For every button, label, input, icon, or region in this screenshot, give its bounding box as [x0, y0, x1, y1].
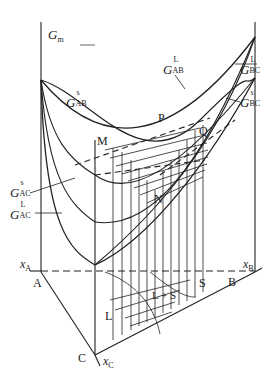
point-P: P [158, 112, 165, 124]
diagram-lines [0, 0, 275, 385]
vertex-B: B [228, 276, 236, 288]
vertex-C: C [78, 352, 86, 364]
curve-label-G-AB-s: GsAB [66, 93, 91, 109]
region-two-phase: L + S [152, 290, 176, 301]
curve-label-G-AB-L: GLAB [163, 60, 188, 76]
point-N: N [154, 193, 163, 205]
region-liquid: L [105, 310, 112, 322]
curve-label-G-BC-s: GsBC [240, 93, 265, 109]
gm-axis-label: Gm [48, 28, 64, 44]
point-M: M [97, 135, 108, 147]
phase-diagram: Gm GsAB GLAB GLBC GsBC GsAC GLAC M N P Q… [0, 0, 275, 385]
axis-xB: xB [243, 258, 254, 273]
curve-label-G-BC-L: GLBC [240, 60, 265, 76]
point-Q: Q [199, 125, 208, 137]
vertex-A: A [33, 277, 42, 289]
axis-xA: xA [20, 258, 31, 273]
curve-label-G-AC-s: GsAC [10, 183, 35, 199]
curve-label-G-AC-L: GLAC [10, 205, 35, 221]
region-solid: S [199, 277, 206, 289]
axis-xC: xC [103, 355, 114, 370]
